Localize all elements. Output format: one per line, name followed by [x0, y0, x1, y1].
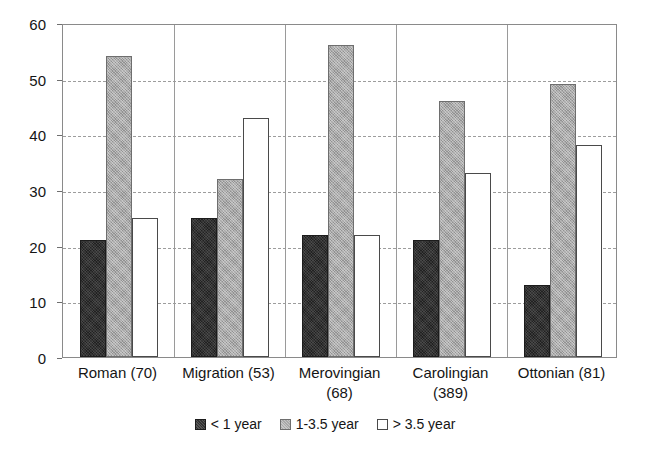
category-separator — [507, 25, 508, 357]
x-tick-label: Carolingian(389) — [395, 363, 506, 403]
x-tick-label: Roman (70) — [62, 363, 173, 383]
bar — [217, 179, 243, 357]
legend-label: > 3.5 year — [393, 416, 456, 432]
category-separator — [174, 25, 175, 357]
legend-swatch-icon — [195, 419, 206, 430]
bar — [302, 235, 328, 357]
category-separator — [285, 25, 286, 357]
x-tick-label: Merovingian(68) — [284, 363, 395, 403]
bar — [413, 240, 439, 357]
bar — [550, 84, 576, 357]
bar — [132, 218, 158, 357]
y-tick-label: 30 — [29, 184, 46, 199]
bar-chart: 0102030405060 Roman (70)Migration (53)Me… — [0, 0, 650, 458]
x-tick-label: Ottonian (81) — [506, 363, 617, 383]
category-separator — [396, 25, 397, 357]
y-tick-label: 0 — [38, 351, 46, 366]
y-tick-label: 40 — [29, 128, 46, 143]
bar — [439, 101, 465, 357]
y-tick-label: 60 — [29, 17, 46, 32]
legend-item: < 1 year — [195, 416, 262, 432]
bar — [576, 145, 602, 357]
bar — [80, 240, 106, 357]
bar — [243, 118, 269, 357]
y-tick-label: 50 — [29, 72, 46, 87]
legend-label: 1-3.5 year — [296, 416, 359, 432]
bar — [106, 56, 132, 357]
y-tick-label: 20 — [29, 239, 46, 254]
bar — [328, 45, 354, 357]
plot-area — [62, 24, 617, 358]
legend-swatch-icon — [377, 419, 388, 430]
y-tick-label: 10 — [29, 295, 46, 310]
bar — [524, 285, 550, 357]
legend-item: 1-3.5 year — [280, 416, 359, 432]
y-axis: 0102030405060 — [0, 24, 55, 358]
bar — [354, 235, 380, 357]
chart-legend: < 1 year1-3.5 year> 3.5 year — [0, 416, 650, 432]
bar — [465, 173, 491, 357]
legend-label: < 1 year — [211, 416, 262, 432]
x-tick-label: Migration (53) — [173, 363, 284, 383]
bar — [191, 218, 217, 357]
legend-swatch-icon — [280, 419, 291, 430]
x-axis: Roman (70)Migration (53)Merovingian(68)C… — [62, 363, 617, 409]
y-tick-mark — [57, 358, 62, 359]
legend-item: > 3.5 year — [377, 416, 456, 432]
